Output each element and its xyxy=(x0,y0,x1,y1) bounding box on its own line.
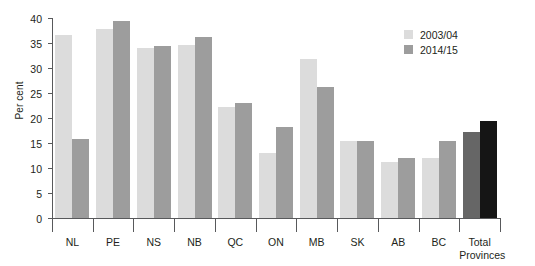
x-axis-separator xyxy=(296,218,297,232)
bar-2014-15 xyxy=(113,21,130,218)
bar-2003-04 xyxy=(259,153,276,219)
bar-group-qc: QC xyxy=(215,18,256,218)
x-axis-separator xyxy=(419,218,420,232)
x-axis-separator xyxy=(500,218,501,232)
bars xyxy=(337,18,378,218)
bar-2003-04 xyxy=(300,59,317,218)
y-tick-label: 25 xyxy=(30,88,42,100)
bar-group-nb: NB xyxy=(174,18,215,218)
bar-2003-04 xyxy=(218,107,235,219)
y-tick-label: 20 xyxy=(30,113,42,125)
bar-2014-15 xyxy=(357,141,374,218)
x-axis-line xyxy=(52,218,500,219)
x-axis-category-label: ON xyxy=(256,236,297,249)
bar-2003-04 xyxy=(340,141,357,218)
bar-group-sk: SK xyxy=(337,18,378,218)
bar-group-mb: MB xyxy=(296,18,337,218)
bar-2014-15 xyxy=(317,87,334,218)
bars xyxy=(296,18,337,218)
bars xyxy=(459,18,500,218)
legend-label: 2003/04 xyxy=(420,29,458,41)
y-axis-title-text: Per cent xyxy=(14,81,25,119)
y-tick-label: 0 xyxy=(36,213,42,225)
x-axis-separator xyxy=(378,218,379,232)
bar-2003-04 xyxy=(178,45,195,219)
y-tick-label: 10 xyxy=(30,163,42,175)
legend-swatch-icon xyxy=(404,30,413,39)
x-axis-category-label: Total Provinces xyxy=(459,236,500,261)
bar-group-nl: NL xyxy=(52,18,93,218)
bar-2003-04 xyxy=(381,162,398,218)
x-axis-category-label: NB xyxy=(174,236,215,249)
bars xyxy=(93,18,134,218)
bar-group-on: ON xyxy=(256,18,297,218)
bar-2003-04 xyxy=(137,48,154,219)
bar-2003-04 xyxy=(463,132,480,219)
bar-2003-04 xyxy=(96,29,113,218)
x-axis-separator xyxy=(337,218,338,232)
legend-item-2014-15: 2014/15 xyxy=(404,42,458,57)
x-axis-category-label: NS xyxy=(133,236,174,249)
bar-2003-04 xyxy=(55,35,72,219)
x-axis-category-label: SK xyxy=(337,236,378,249)
bar-2014-15 xyxy=(439,141,456,219)
bars xyxy=(133,18,174,218)
x-axis-separator xyxy=(459,218,460,232)
x-axis-category-label: QC xyxy=(215,236,256,249)
x-axis-category-label: PE xyxy=(93,236,134,249)
bars xyxy=(52,18,93,218)
y-axis-title: Per cent xyxy=(8,0,30,200)
x-axis-category-label: NL xyxy=(52,236,93,249)
bar-group-total-provinces: Total Provinces xyxy=(459,18,500,218)
x-axis-separator xyxy=(215,218,216,232)
x-axis-separator xyxy=(93,218,94,232)
bar-2014-15 xyxy=(276,127,293,218)
y-tick-label: 5 xyxy=(36,188,42,200)
bar-group-pe: PE xyxy=(93,18,134,218)
bar-2014-15 xyxy=(235,103,252,218)
y-tick-label: 35 xyxy=(30,38,42,50)
bar-chart: Per cent 0510152025303540 NLPENSNBQCONMB… xyxy=(0,0,535,266)
x-axis-category-label: AB xyxy=(378,236,419,249)
y-tick-label: 40 xyxy=(30,13,42,25)
x-axis-separator xyxy=(256,218,257,232)
bar-2003-04 xyxy=(422,158,439,219)
legend-item-2003-04: 2003/04 xyxy=(404,27,458,42)
x-axis-separator xyxy=(174,218,175,232)
x-axis-separator xyxy=(133,218,134,232)
x-axis-separator xyxy=(52,218,53,232)
bars xyxy=(256,18,297,218)
bars xyxy=(215,18,256,218)
legend-label: 2014/15 xyxy=(420,44,458,56)
x-axis-category-label: BC xyxy=(419,236,460,249)
bar-2014-15 xyxy=(195,37,212,218)
x-axis-category-label: MB xyxy=(296,236,337,249)
y-tick-label: 15 xyxy=(30,138,42,150)
bar-2014-15 xyxy=(480,121,497,218)
chart-legend: 2003/04 2014/15 xyxy=(404,27,458,57)
bar-group-ns: NS xyxy=(133,18,174,218)
bar-2014-15 xyxy=(398,158,415,219)
bars xyxy=(174,18,215,218)
bar-2014-15 xyxy=(154,46,171,218)
y-tick-label: 30 xyxy=(30,63,42,75)
bar-2014-15 xyxy=(72,139,89,218)
legend-swatch-icon xyxy=(404,45,413,54)
